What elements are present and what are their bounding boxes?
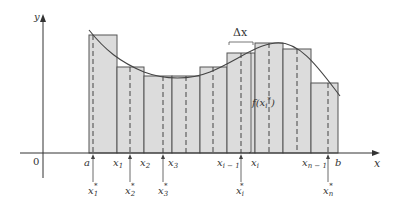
sample-arrowheads-icon bbox=[91, 154, 330, 159]
svg-text:x3: x3 bbox=[168, 157, 179, 170]
svg-text:x2: x2 bbox=[140, 157, 151, 170]
svg-text:b: b bbox=[335, 157, 341, 168]
riemann-sum-diagram: Δx y x 0 f(xi*) a x1 x2 x3 xi − 1 xi xn … bbox=[0, 0, 400, 200]
partition-labels: a x1 x2 x3 xi − 1 xi xn − 1 b bbox=[84, 157, 341, 170]
sample-labels: x1* x2* x3* xi* xn* bbox=[88, 182, 334, 198]
rect-9 bbox=[311, 83, 338, 153]
svg-text:xn − 1: xn − 1 bbox=[302, 157, 327, 170]
svg-text:a: a bbox=[84, 157, 90, 168]
function-value-label: f(xi*) bbox=[251, 96, 275, 110]
y-axis-label: y bbox=[33, 11, 40, 22]
sample-arrows bbox=[93, 157, 328, 182]
svg-text:x1*: x1* bbox=[88, 182, 98, 198]
svg-text:xi*: xi* bbox=[236, 182, 244, 198]
svg-text:xi: xi bbox=[251, 157, 259, 170]
svg-text:xi − 1: xi − 1 bbox=[217, 157, 240, 170]
x-axis-label: x bbox=[374, 157, 381, 170]
svg-text:x3*: x3* bbox=[158, 182, 169, 198]
delta-x-brace bbox=[229, 42, 253, 45]
svg-text:x2*: x2* bbox=[125, 182, 136, 198]
svg-text:x1: x1 bbox=[113, 157, 123, 170]
svg-text:xn*: xn* bbox=[323, 182, 334, 198]
rect-3 bbox=[144, 76, 172, 153]
y-axis-arrow-icon bbox=[40, 14, 46, 22]
x-axis-arrow-icon bbox=[372, 150, 380, 156]
delta-x-label: Δx bbox=[233, 26, 248, 39]
origin-label: 0 bbox=[33, 156, 39, 167]
